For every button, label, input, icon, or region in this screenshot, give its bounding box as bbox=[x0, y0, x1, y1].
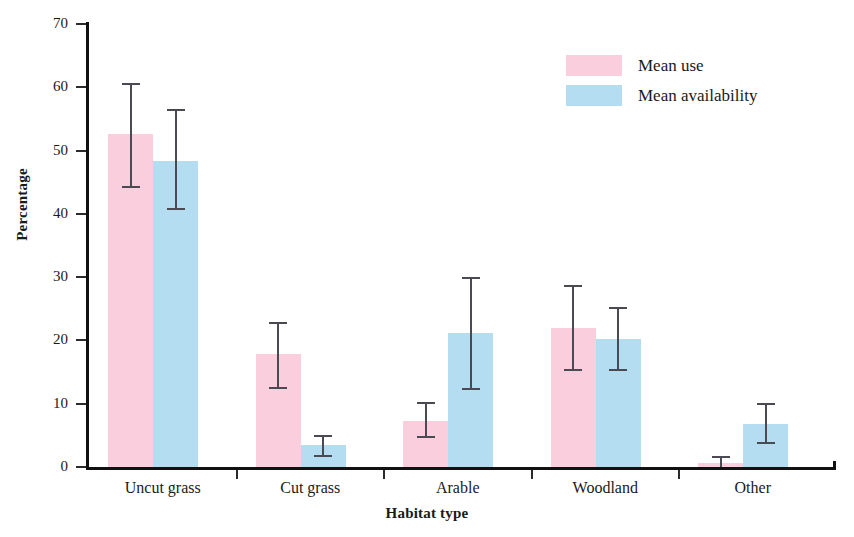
error-bar-line bbox=[572, 285, 574, 369]
error-bar-line bbox=[425, 402, 427, 436]
x-axis-tick-label: Uncut grass bbox=[83, 479, 243, 497]
legend: Mean use Mean availability bbox=[566, 52, 757, 112]
error-bar-cap-top bbox=[167, 109, 185, 111]
error-bar-line bbox=[765, 403, 767, 442]
x-axis-endcap-right bbox=[833, 461, 836, 470]
x-axis-tick-label: Other bbox=[673, 479, 833, 497]
x-axis-tick bbox=[383, 470, 385, 479]
error-bar-line bbox=[617, 307, 619, 369]
error-bar-cap-bottom bbox=[564, 369, 582, 371]
legend-swatch-mean-use bbox=[566, 55, 622, 76]
error-bar-cap-top bbox=[122, 83, 140, 85]
error-bar-line bbox=[322, 435, 324, 455]
error-bar-cap-top bbox=[314, 435, 332, 437]
x-axis-tick bbox=[531, 470, 533, 479]
error-bar-cap-top bbox=[269, 322, 287, 324]
x-axis-tick bbox=[678, 470, 680, 479]
x-axis-tick-label: Arable bbox=[378, 479, 538, 497]
error-bar-cap-bottom bbox=[314, 455, 332, 457]
error-bar-line bbox=[175, 109, 177, 208]
error-bar-cap-bottom bbox=[757, 442, 775, 444]
x-axis-tick-label: Cut grass bbox=[230, 479, 390, 497]
legend-swatch-mean-availability bbox=[566, 85, 622, 106]
error-bar-cap-bottom bbox=[609, 369, 627, 371]
error-bar-cap-top bbox=[462, 277, 480, 279]
error-bar-cap-bottom bbox=[417, 436, 435, 438]
error-bar-cap-top bbox=[417, 402, 435, 404]
error-bar-cap-top bbox=[609, 307, 627, 309]
legend-label-mean-use: Mean use bbox=[638, 57, 704, 74]
error-bar-line bbox=[130, 83, 132, 186]
error-bar-cap-bottom bbox=[269, 387, 287, 389]
error-bar-cap-top bbox=[564, 285, 582, 287]
x-axis-line bbox=[86, 467, 836, 470]
legend-label-mean-availability: Mean availability bbox=[638, 87, 757, 104]
legend-entry-mean-use: Mean use bbox=[566, 52, 757, 78]
error-bar-cap-top bbox=[712, 456, 730, 458]
x-axis-endcap-left bbox=[86, 461, 89, 470]
error-bar-cap-bottom bbox=[462, 388, 480, 390]
x-axis-title: Habitat type bbox=[0, 505, 854, 522]
bar-chart-figure: Percentage 010203040506070 Uncut grassCu… bbox=[0, 0, 854, 537]
error-bar-cap-bottom bbox=[167, 208, 185, 210]
error-bar-cap-top bbox=[757, 403, 775, 405]
error-bar-cap-bottom bbox=[122, 186, 140, 188]
page-bottom-edge bbox=[0, 529, 854, 537]
error-bar-line bbox=[277, 322, 279, 387]
x-axis-tick-label: Woodland bbox=[525, 479, 685, 497]
x-axis-tick bbox=[236, 470, 238, 479]
legend-entry-mean-availability: Mean availability bbox=[566, 82, 757, 108]
error-bar-line bbox=[470, 277, 472, 388]
